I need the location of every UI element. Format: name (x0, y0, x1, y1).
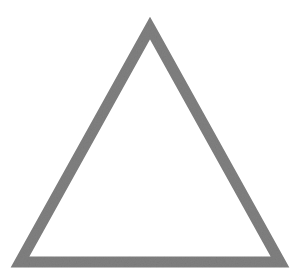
image-canvas (0, 0, 302, 276)
background-rect (0, 0, 302, 276)
triangle-figure (0, 0, 302, 276)
